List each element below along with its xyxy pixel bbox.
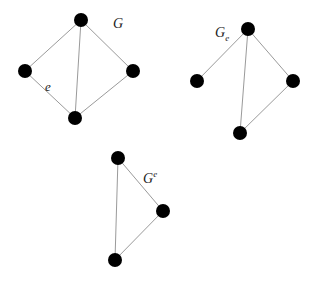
graph-label-g-sup-e-sup: e — [153, 169, 157, 179]
edge-g-e-top-right — [248, 29, 293, 81]
node-g-e-top — [241, 22, 255, 36]
graph-label-g: G — [113, 16, 123, 31]
node-g-sup-e-top — [111, 151, 125, 165]
node-g-right — [126, 64, 140, 78]
graph-diagram: G e Ge Ge — [0, 0, 317, 284]
graph-label-g-e: Ge — [215, 25, 229, 43]
graph-label-g-base: G — [113, 16, 123, 31]
node-g-left — [18, 64, 32, 78]
graph-label-g-e-sub: e — [225, 33, 229, 43]
node-g-sup-e-right — [156, 204, 170, 218]
edge-g-top-right — [81, 20, 133, 71]
edge-g-right-bottom — [75, 71, 133, 118]
edge-g-sup-e-top-right — [118, 158, 163, 211]
node-g-e-right — [286, 74, 300, 88]
diagram-svg: G e Ge Ge — [0, 0, 317, 284]
edge-g-top-left — [25, 20, 81, 71]
node-g-e-left — [190, 74, 204, 88]
edge-g-sup-e-right-bottom — [115, 211, 163, 260]
node-g-sup-e-bottom — [108, 253, 122, 267]
graph-label-g-sup-e: Ge — [143, 169, 157, 186]
node-g-bottom — [68, 111, 82, 125]
node-g-top — [74, 13, 88, 27]
graph-label-g-e-base: G — [215, 25, 225, 40]
edge-g-e-right-bottom — [240, 81, 293, 133]
node-g-e-bottom — [233, 126, 247, 140]
edge-g-e-top-bottom — [240, 29, 248, 133]
edge-g-sup-e-top-bottom — [115, 158, 118, 260]
edge-label-e: e — [45, 79, 51, 94]
edge-g-top-bottom — [75, 20, 81, 118]
graph-label-g-sup-e-base: G — [143, 171, 153, 186]
